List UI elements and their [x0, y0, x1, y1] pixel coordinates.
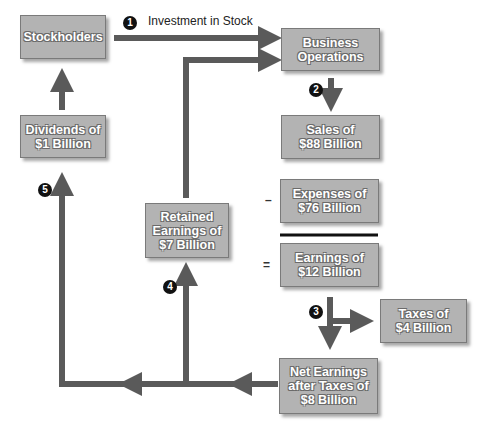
equals-operator: = — [263, 258, 270, 272]
sales-box: Sales of $88 Billion — [281, 115, 380, 159]
stockholders-box: Stockholders — [20, 15, 106, 59]
step-1-badge: 1 — [123, 16, 137, 30]
investment-label: Investment in Stock — [148, 14, 253, 28]
step-4-badge: 4 — [163, 280, 177, 294]
flow-arrows — [0, 0, 482, 430]
minus-operator: – — [265, 193, 272, 207]
step-3-badge: 3 — [309, 305, 323, 319]
business-operations-box: Business Operations — [281, 28, 380, 71]
dividends-box: Dividends of $1 Billion — [20, 115, 106, 158]
expenses-box: Expenses of $76 Billion — [280, 179, 379, 223]
earnings-box: Earnings of $12 Billion — [280, 243, 379, 287]
step-5-badge: 5 — [38, 183, 52, 197]
taxes-box: Taxes of $4 Billion — [380, 299, 467, 343]
net-earnings-box: Net Earnings after Taxes of $8 Billion — [279, 358, 378, 414]
retained-earnings-box: Retained Earnings of $7 Billion — [145, 203, 229, 258]
step-2-badge: 2 — [309, 83, 323, 97]
